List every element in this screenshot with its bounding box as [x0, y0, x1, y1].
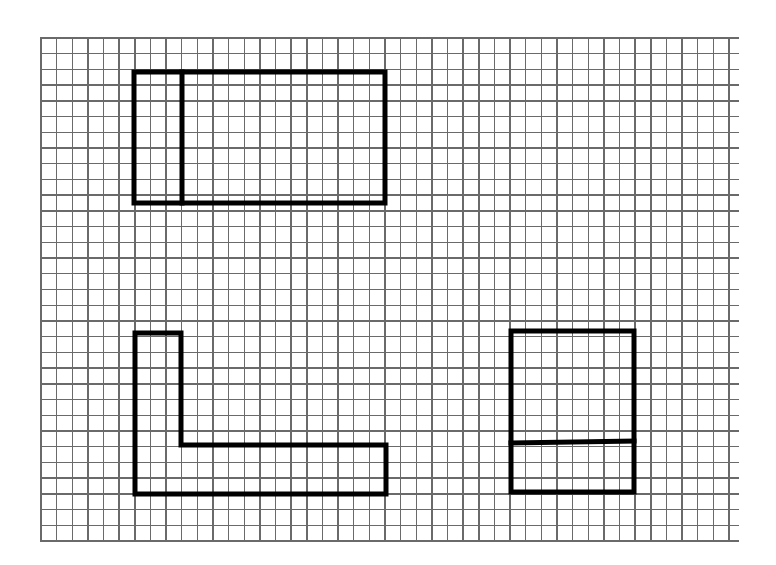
- side-view-divider-horizontal: [511, 441, 634, 443]
- graph-paper-drawing: [0, 0, 776, 565]
